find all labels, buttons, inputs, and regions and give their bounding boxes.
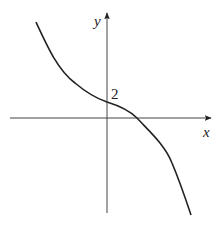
graph-figure: y x 2 [0, 0, 223, 234]
x-axis-label: x [202, 124, 210, 140]
y-intercept-label: 2 [111, 86, 119, 102]
graph-svg: y x 2 [0, 0, 223, 234]
y-axis-label: y [92, 13, 101, 29]
